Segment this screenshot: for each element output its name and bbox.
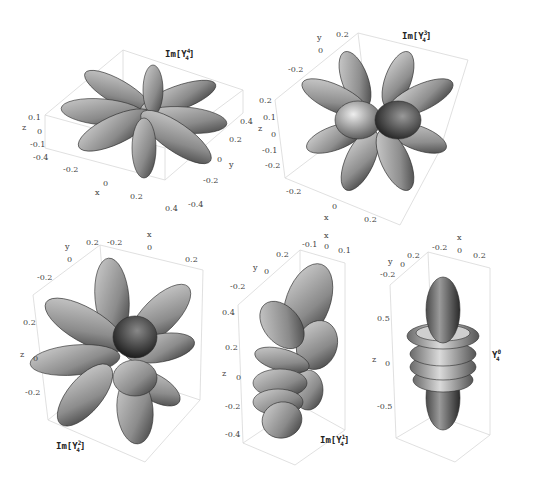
panel-title: Im[Y24] (56, 439, 85, 453)
x-tick: 0 (457, 246, 462, 255)
z-tick: -0.2 (25, 388, 40, 397)
harmonic-surface (360, 230, 533, 483)
y-axis-label: y (65, 242, 70, 251)
z-axis-label: z (20, 350, 24, 359)
y-tick: -0.2 (230, 282, 245, 291)
title-subscript: 4 (340, 440, 344, 447)
z-tick: -0.2 (265, 161, 280, 170)
title-subscript: 4 (76, 446, 80, 453)
y-tick: 0.2 (407, 251, 420, 260)
x-tick: -0.4 (33, 153, 48, 162)
x-axis-label: x (147, 230, 152, 239)
panel-im-y4-4: Im[Y44] 0.1 z 0 -0.1 -0.4 -0.2 0 x 0.2 0… (0, 30, 270, 230)
z-tick: 0.5 (377, 314, 390, 323)
x-tick: 0.2 (364, 215, 377, 224)
y-tick: 0.2 (336, 30, 349, 39)
z-axis-label: z (372, 355, 376, 364)
z-tick: 0 (271, 130, 276, 139)
z-tick: -0.1 (30, 140, 45, 149)
y-axis-label: y (253, 263, 258, 272)
x-tick: 0 (324, 242, 329, 251)
x-tick: 0 (147, 243, 152, 252)
z-axis-label: z (22, 123, 26, 132)
x-tick: 0 (103, 179, 108, 188)
panel-title: Im[Y44] (165, 47, 194, 61)
x-tick: -0.2 (107, 238, 122, 247)
title-subscript: 4 (496, 355, 500, 362)
title-subscript: 4 (185, 54, 189, 61)
x-tick: 0.4 (165, 204, 178, 213)
panel-y4-0: Y04 x -0.2 0 0.2 0.2 y 0 -0.2 0.5 z 0 -0… (360, 230, 533, 483)
z-tick: 0.2 (225, 343, 238, 352)
x-tick: 0.2 (473, 251, 486, 260)
panel-im-y4-3: Im[Y34] y 0.2 0 -0.2 0.2 0.1 z 0 -0.1 -0… (250, 20, 533, 240)
panel-title: Im[Y14] (320, 433, 349, 447)
y-tick: -0.2 (380, 270, 395, 279)
y-tick: -0.2 (288, 65, 303, 74)
panel-title: Im[Y34] (402, 29, 431, 43)
y-tick: 0 (67, 255, 72, 264)
y-tick: -0.2 (37, 273, 52, 282)
y-axis-label: y (317, 33, 322, 42)
x-axis-label: x (95, 188, 100, 197)
y-tick: 0 (217, 155, 222, 164)
z-tick: 0.2 (259, 96, 272, 105)
panel-title: Y04 (492, 348, 500, 362)
z-tick: 0.1 (263, 113, 276, 122)
harmonic-surface (250, 20, 533, 240)
z-tick: 0.1 (28, 113, 41, 122)
z-axis-label: z (222, 369, 226, 378)
z-tick: -0.1 (262, 146, 277, 155)
panel-im-y4-1: Im[Y14] x -0.1 0 0.1 0.2 y 0 -0.2 0.4 0.… (220, 230, 370, 483)
x-tick: 0 (332, 202, 337, 211)
z-tick: 0.2 (23, 318, 36, 327)
y-tick: -0.2 (203, 176, 218, 185)
z-axis-label: z (258, 124, 262, 133)
x-tick: 0.1 (338, 246, 351, 255)
y-tick: 0 (318, 46, 323, 55)
y-tick: 0.2 (276, 250, 289, 259)
z-tick: -0.2 (225, 402, 240, 411)
y-tick: 0 (400, 260, 405, 269)
z-tick: -0.5 (377, 402, 392, 411)
x-axis-label: x (324, 231, 329, 240)
x-tick: -0.2 (63, 165, 78, 174)
z-tick: 0.4 (222, 308, 235, 317)
y-tick: 0 (264, 267, 269, 276)
y-tick: 0.2 (229, 135, 242, 144)
panel-im-y4-2: Im[Y24] y 0.2 0 -0.2 -0.2 x 0 0.2 0.2 z … (0, 230, 230, 483)
z-tick: 0 (385, 359, 390, 368)
x-tick: -0.2 (432, 243, 447, 252)
x-tick: -0.1 (302, 240, 317, 249)
y-tick: 0.2 (86, 238, 99, 247)
z-tick: 0 (37, 127, 42, 136)
y-axis-label: y (229, 160, 234, 169)
z-tick: 0 (33, 354, 38, 363)
z-tick: -0.4 (225, 430, 240, 439)
x-axis-label: x (457, 233, 462, 242)
x-axis-label: x (324, 213, 329, 222)
title-subscript: 4 (422, 36, 426, 43)
y-axis-label: y (388, 257, 393, 266)
y-tick: -0.4 (188, 200, 203, 209)
x-tick: 0.2 (185, 255, 198, 264)
x-tick: 0.2 (130, 192, 143, 201)
z-tick: 0 (236, 373, 241, 382)
x-tick: -0.2 (286, 187, 301, 196)
